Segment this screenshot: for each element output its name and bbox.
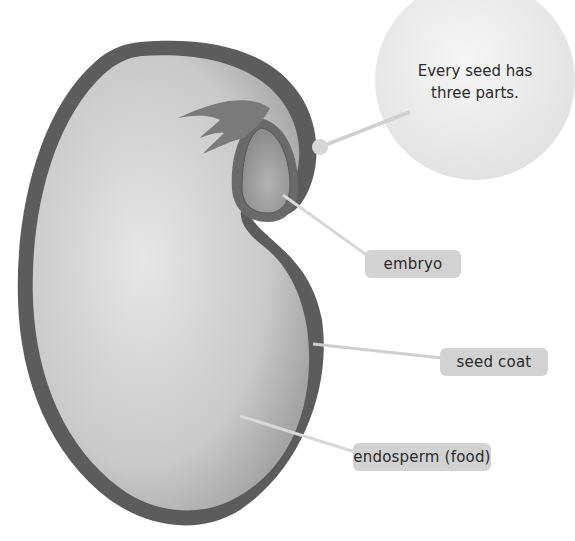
- seed-coat-pointer: [313, 344, 442, 358]
- label-embryo: embryo: [365, 250, 461, 278]
- label-seed-coat: seed coat: [440, 348, 548, 376]
- embryo-pointer: [283, 195, 368, 256]
- callout-text: Every seed has three parts.: [410, 60, 540, 104]
- callout-pointer-dot: [312, 139, 328, 155]
- label-endosperm: endosperm (food): [353, 443, 491, 471]
